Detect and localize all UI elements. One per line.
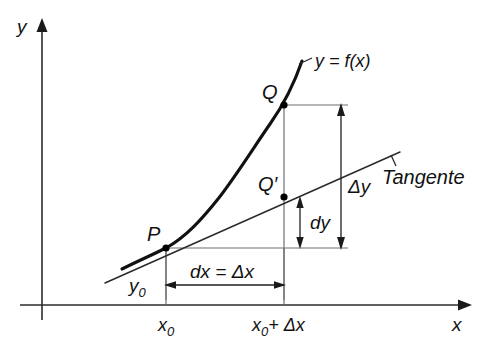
y0-label: y0 [127, 275, 147, 300]
tangent-label-leader [391, 155, 396, 166]
tangent-label: Tangente [382, 166, 465, 188]
y-axis-label: y [15, 16, 28, 37]
dx-dimension [164, 281, 286, 288]
x-tick-x0: x0 [157, 315, 175, 339]
x-tick-x0-sub: 0 [167, 324, 175, 339]
point-q-dot [280, 101, 287, 108]
differential-diagram: y x P Q Q′ y = f(x) Tangente Δy dy dx = … [0, 0, 485, 352]
point-qprime-label: Q′ [258, 173, 279, 195]
dy-arrowhead-bottom [296, 237, 303, 249]
x-tick-x1-rest: + Δx [268, 315, 306, 335]
dx-label: dx = Δx [190, 261, 255, 282]
point-p-label: P [147, 223, 161, 245]
dy-dimension [296, 196, 303, 249]
y-axis-arrowhead [37, 18, 48, 32]
point-p-dot [162, 244, 169, 251]
point-qprime-dot [280, 193, 287, 200]
y0-label-sub: 0 [139, 285, 147, 300]
figure-root: y x P Q Q′ y = f(x) Tangente Δy dy dx = … [0, 0, 485, 352]
point-q-label: Q [262, 81, 278, 103]
text-labels-group: y x P Q Q′ y = f(x) Tangente Δy dy dx = … [15, 16, 465, 339]
x-axis-label: x [451, 314, 463, 335]
delta-y-label: Δy [347, 176, 372, 197]
x-tick-x0-plus-dx: x0+ Δx [251, 315, 306, 339]
dy-label: dy [310, 212, 332, 233]
x-axis-arrowhead [458, 300, 472, 311]
function-label: y = f(x) [313, 51, 371, 71]
